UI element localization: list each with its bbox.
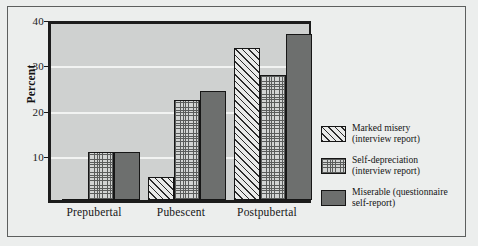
legend-label-line1: Miserable (questionnaire [352,187,464,198]
legend-label-marked-misery: Marked misery (interview report) [352,123,464,144]
legend-swatch-miserable [321,190,346,206]
legend-label-line1: Self-depreciation [352,155,464,166]
legend-label-line2: (interview report) [352,134,464,145]
figure: 40 30 20 10 Percent Prepubertal Pubescen… [0,0,478,246]
plot-area [48,21,311,203]
x-tick-label-prepubertal: Prepubertal [46,206,142,218]
bar-postpubertal-miserable [286,34,312,200]
legend-label-self-depreciation: Self-depreciation (interview report) [352,155,464,176]
legend-label-miserable: Miserable (questionnaire self-report) [352,187,464,208]
y-tick-label-10: 10 [18,151,44,163]
bar-pubescent-self-depreciation [174,100,200,200]
gridline-30 [51,66,309,68]
x-tick-label-pubescent: Pubescent [133,206,229,218]
y-axis-title: Percent [25,44,37,124]
legend-swatch-marked-misery [321,126,346,142]
legend-label-line2: (interview report) [352,166,464,177]
x-tick-label-postpubertal: Postpubertal [218,206,316,218]
legend-item-self-depreciation: Self-depreciation (interview report) [321,157,461,183]
bar-pubescent-miserable [200,91,226,200]
bar-postpubertal-marked-misery [234,48,260,200]
y-tick-label-40: 40 [18,15,44,27]
bar-prepubertal-self-depreciation [88,152,114,200]
bar-pubescent-marked-misery [148,177,174,200]
bar-postpubertal-self-depreciation [260,75,286,200]
legend-item-miserable: Miserable (questionnaire self-report) [321,189,461,215]
legend-item-marked-misery: Marked misery (interview report) [321,125,461,151]
bar-prepubertal-miserable [114,152,140,200]
bar-prepubertal-marked-misery [62,199,88,200]
legend-swatch-self-depreciation [321,158,346,174]
legend: Marked misery (interview report) Self-de… [321,125,461,221]
legend-label-line2: self-report) [352,198,464,209]
legend-label-line1: Marked misery [352,123,464,134]
